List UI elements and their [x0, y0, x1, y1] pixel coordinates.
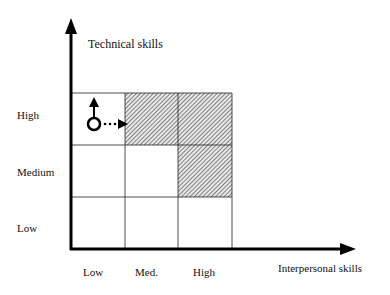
- x-level-low: Low: [83, 266, 103, 278]
- x-level-med: Med.: [135, 266, 158, 278]
- y-level-medium: Medium: [17, 166, 54, 178]
- shaded-cell-high-high: [178, 93, 232, 145]
- up-arrow-icon: [89, 97, 99, 107]
- circle-marker-icon: [88, 118, 100, 130]
- shaded-cell-high-medium: [178, 145, 232, 197]
- y-level-low: Low: [17, 222, 37, 234]
- y-axis-arrowhead-icon: [65, 18, 77, 34]
- y-axis-label: Technical skills: [88, 37, 163, 52]
- x-axis-arrowhead-icon: [340, 243, 356, 255]
- y-axis: [65, 18, 77, 250]
- x-level-high: High: [193, 266, 215, 278]
- dotted-right-arrow-icon: [104, 119, 128, 129]
- skills-matrix-diagram: [0, 0, 390, 295]
- x-axis: [70, 243, 356, 255]
- shaded-cell-med-high: [125, 93, 178, 145]
- y-level-high: High: [17, 109, 39, 121]
- x-axis-label: Interpersonal skills: [278, 262, 362, 274]
- position-marker: [88, 97, 128, 130]
